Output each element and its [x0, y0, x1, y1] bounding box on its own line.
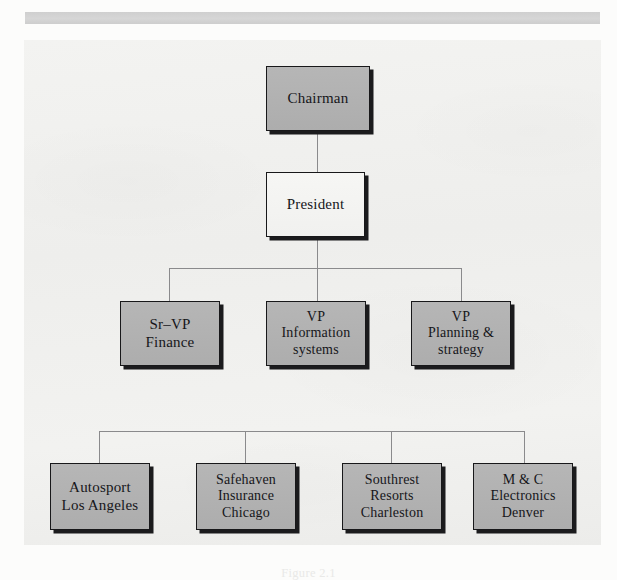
org-node-label: VP Planning & strategy — [424, 309, 498, 359]
org-node-label: M & C Electronics Denver — [486, 472, 559, 522]
org-node-sr-vp-finance[interactable]: Sr–VP Finance — [120, 301, 220, 366]
org-node-label: Sr–VP Finance — [142, 316, 199, 351]
org-node-label: Southrest Resorts Charleston — [357, 472, 428, 522]
organizational-chart: ChairmanPresidentSr–VP FinanceVP Informa… — [0, 0, 617, 580]
org-node-label: VP Information systems — [277, 309, 354, 359]
connector-line — [99, 431, 100, 464]
org-node-southrest[interactable]: Southrest Resorts Charleston — [342, 463, 442, 530]
connector-line — [461, 268, 462, 302]
org-node-label: Chairman — [284, 90, 353, 108]
connector-line — [391, 431, 392, 464]
org-node-chairman[interactable]: Chairman — [266, 66, 370, 131]
org-node-label: Safehaven Insurance Chicago — [212, 472, 280, 522]
connector-line — [245, 431, 246, 464]
org-node-label: President — [283, 196, 349, 214]
org-node-vp-info-systems[interactable]: VP Information systems — [266, 301, 366, 366]
document-page: ChairmanPresidentSr–VP FinanceVP Informa… — [0, 0, 617, 580]
org-node-mandc[interactable]: M & C Electronics Denver — [473, 463, 573, 530]
connector-line — [169, 268, 462, 269]
connector-line — [99, 431, 525, 432]
org-node-vp-planning[interactable]: VP Planning & strategy — [411, 301, 511, 366]
org-node-president[interactable]: President — [266, 172, 365, 237]
connector-line — [317, 131, 318, 172]
connector-line — [317, 237, 318, 269]
connector-line — [317, 268, 318, 302]
org-node-autosport[interactable]: Autosport Los Angeles — [50, 463, 150, 530]
connector-line — [524, 431, 525, 464]
org-node-label: Autosport Los Angeles — [58, 479, 143, 514]
connector-line — [169, 268, 170, 302]
figure-caption: Figure 2.1 — [0, 566, 617, 580]
org-node-safehaven[interactable]: Safehaven Insurance Chicago — [196, 463, 296, 530]
